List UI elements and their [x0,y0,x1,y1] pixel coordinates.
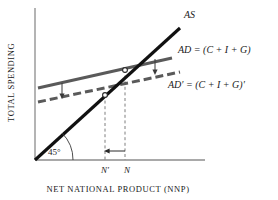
angle-label: 45° [48,147,61,157]
tick-label-n-prime: N′ [100,165,110,175]
ad-prime-curve-label: AD′ = (C + I + G)′ [167,79,246,91]
angle-arc [62,133,73,160]
keynesian-cross-diagram: TOTAL SPENDING NET NATIONAL PRODUCT (NNP… [0,0,278,200]
equilibrium-point-n [123,68,128,73]
ad-curve [38,58,172,88]
y-axis-label: TOTAL SPENDING [6,43,16,122]
equilibrium-point-n-prime [103,93,108,98]
as-curve-label: AS [183,9,195,20]
tick-label-n: N [123,165,131,175]
x-axis-label: NET NATIONAL PRODUCT (NNP) [46,184,189,194]
ad-curve-label: AD = (C + I + G) [177,44,251,56]
ad-prime-curve [38,72,180,102]
output-contraction-arrow [104,148,125,153]
